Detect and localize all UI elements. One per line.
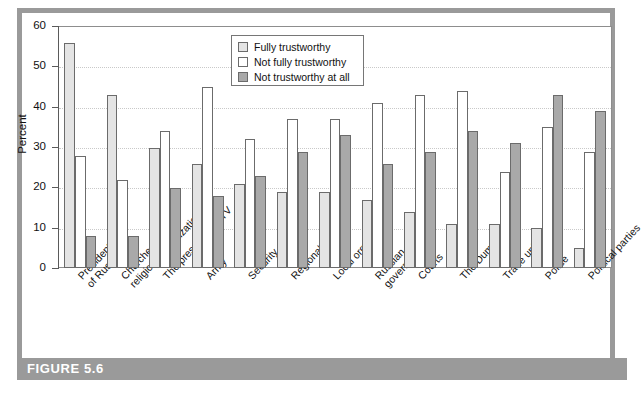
bar (340, 135, 351, 268)
bar (584, 152, 595, 268)
legend-item-label: Not fully trustworthy (254, 56, 346, 68)
bar (75, 156, 86, 268)
bar (234, 184, 245, 268)
bar (574, 248, 585, 268)
legend-item-label: Not trustworthy at all (254, 71, 350, 83)
bar (128, 236, 139, 268)
y-axis-tick-label: 10 (4, 221, 46, 233)
bar (457, 91, 468, 268)
bar (107, 95, 118, 268)
bar (372, 103, 383, 268)
bar (330, 119, 341, 268)
bar (489, 224, 500, 268)
y-axis-tick (52, 66, 58, 67)
y-axis-tick (52, 147, 58, 148)
figure-caption-label: FIGURE 5.6 (27, 361, 104, 376)
y-axis-tick (52, 107, 58, 108)
legend-swatch-icon (238, 72, 248, 82)
y-axis-tick (52, 187, 58, 188)
legend-item: Not fully trustworthy (238, 55, 357, 69)
bar (192, 164, 203, 268)
bar (213, 196, 224, 268)
bar (117, 180, 128, 268)
legend-item: Fully trustworthy (238, 40, 357, 54)
chart-legend: Fully trustworthy Not fully trustworthy … (231, 35, 364, 86)
bar (510, 143, 521, 268)
bar (245, 139, 256, 268)
legend-item-label: Fully trustworthy (254, 41, 330, 53)
legend-swatch-icon (238, 57, 248, 67)
bar (170, 188, 181, 268)
y-axis-tick (52, 26, 58, 27)
y-axis-title: Percent (16, 94, 28, 174)
legend-item: Not trustworthy at all (238, 70, 357, 84)
bar (404, 212, 415, 268)
bar (446, 224, 457, 268)
bar (319, 192, 330, 268)
bar (595, 111, 606, 268)
y-axis-tick (52, 228, 58, 229)
y-axis-tick-label: 50 (4, 59, 46, 71)
bar (160, 131, 171, 268)
bar (415, 95, 426, 268)
bar (553, 95, 564, 268)
figure-caption-bar: FIGURE 5.6 (17, 358, 627, 380)
y-axis-tick-label: 20 (4, 180, 46, 192)
bar (149, 148, 160, 269)
bar (500, 172, 511, 268)
y-axis-tick-label: 60 (4, 19, 46, 31)
bar (277, 192, 288, 268)
bar (287, 119, 298, 268)
bar (531, 228, 542, 268)
bar (542, 127, 553, 268)
bar (468, 131, 479, 268)
bar (298, 152, 309, 268)
legend-swatch-icon (238, 42, 248, 52)
bar (255, 176, 266, 268)
bar (202, 87, 213, 268)
bar (64, 43, 75, 268)
bar (383, 164, 394, 268)
bar (86, 236, 97, 268)
bar (362, 200, 373, 268)
bar (425, 152, 436, 268)
